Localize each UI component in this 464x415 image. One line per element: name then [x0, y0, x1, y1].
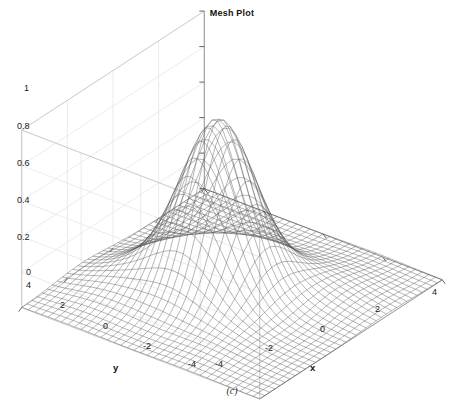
x-tick-2: 0	[320, 325, 325, 334]
x-tick-3: 2	[375, 305, 380, 314]
z-tick-3: 0.4	[17, 196, 30, 205]
y-tick-4: -4	[188, 360, 196, 369]
z-tick-5: 0	[26, 268, 31, 277]
y-tick-3: -2	[143, 342, 151, 351]
x-tick-4: 4	[432, 288, 437, 297]
y-tick-2: 0	[103, 322, 108, 331]
figure-caption: (c)	[0, 385, 464, 396]
x-tick-0: -4	[215, 360, 223, 369]
y-axis-title: y	[113, 363, 118, 373]
mesh-plot-canvas	[0, 0, 464, 415]
mesh-plot-figure: Mesh Plot 10.80.60.40.20 420-2-4 -4-2024…	[0, 0, 464, 415]
y-tick-0: 4	[26, 281, 31, 290]
z-tick-2: 0.6	[17, 159, 30, 168]
surface-wireframe	[22, 119, 443, 399]
z-tick-4: 0.2	[17, 233, 30, 242]
z-tick-1: 0.8	[17, 122, 30, 131]
x-axis-title: x	[310, 363, 315, 373]
y-tick-1: 2	[60, 301, 65, 310]
x-tick-1: -2	[265, 344, 273, 353]
z-tick-0: 1	[24, 84, 29, 93]
